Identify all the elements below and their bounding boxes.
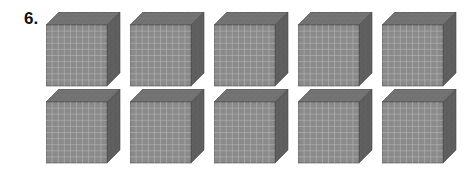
thousand-cube (298, 12, 374, 88)
thousand-cube (130, 12, 206, 88)
thousand-cube (298, 89, 374, 165)
thousand-cube (46, 12, 122, 88)
problem-number: 6. (24, 9, 38, 29)
thousand-cube (214, 89, 290, 165)
thousand-cube (130, 89, 206, 165)
thousand-cube (46, 89, 122, 165)
thousand-cube (382, 89, 458, 165)
thousand-cube (214, 12, 290, 88)
thousand-cube (382, 12, 458, 88)
